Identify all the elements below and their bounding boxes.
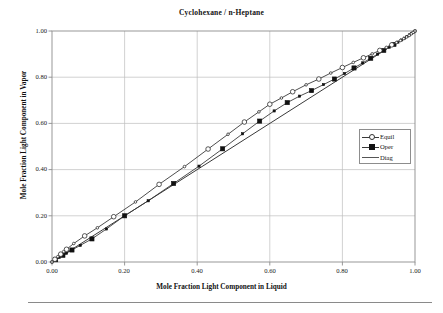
legend-item-oper[interactable]: Oper (362, 142, 408, 152)
chart-figure: Cyclohexane / n-Heptane Mole Fraction Li… (0, 0, 443, 313)
legend-item-equil[interactable]: Equil (362, 132, 408, 142)
line-marker-icon (362, 153, 379, 162)
filled-square-marker-icon (362, 143, 379, 152)
legend-label: Diag (379, 153, 393, 163)
legend-label: Oper (379, 142, 393, 152)
legend-label: Equil (379, 132, 394, 142)
chart-legend[interactable]: Equil Oper Diag (359, 129, 411, 164)
open-circle-marker-icon (362, 133, 379, 142)
legend-item-diag[interactable]: Diag (362, 153, 408, 163)
footer-divider (28, 302, 432, 303)
